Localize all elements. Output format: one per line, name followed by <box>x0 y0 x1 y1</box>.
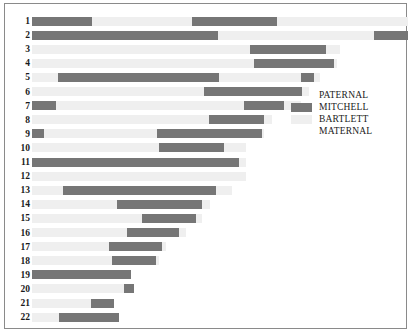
chromosome-row: 21 <box>14 296 408 310</box>
chromosome-row: 14 <box>14 197 408 211</box>
chromosome-row: 2 <box>14 28 408 42</box>
chromosome-bar <box>32 45 340 54</box>
chromosome-segment-bartlett <box>179 228 186 237</box>
chromosome-row: 4 <box>14 56 408 70</box>
chromosome-bar <box>32 214 202 223</box>
chromosome-number-label: 4 <box>14 56 30 70</box>
chromosome-row: 10 <box>14 141 408 155</box>
figure-frame: 12345678910111213141516171819202122 PATE… <box>4 3 407 329</box>
chromosome-number-label: 18 <box>14 254 30 268</box>
chromosome-number-label: 14 <box>14 197 30 211</box>
chromosome-segment-bartlett <box>156 256 159 265</box>
chromosome-segment-mitchell <box>254 59 334 68</box>
chromosome-segment-mitchell <box>59 313 119 322</box>
chromosome-segment-bartlett <box>32 45 250 54</box>
chromosome-segment-bartlett <box>239 158 246 167</box>
chromosome-segment-mitchell <box>32 101 56 110</box>
chromosome-segment-mitchell <box>58 73 219 82</box>
chromosome-number-label: 17 <box>14 240 30 254</box>
chromosome-segment-bartlett <box>32 59 254 68</box>
chromosome-segment-mitchell <box>250 45 326 54</box>
chromosome-segment-mitchell <box>124 284 134 293</box>
chromosome-segment-bartlett <box>32 115 209 124</box>
chromosome-number-label: 22 <box>14 310 30 324</box>
chromosome-bar <box>32 200 210 209</box>
chromosome-segment-bartlett <box>218 31 374 40</box>
chromosome-segment-bartlett <box>92 17 192 26</box>
chromosome-ideogram-figure: 12345678910111213141516171819202122 PATE… <box>0 0 412 334</box>
chromosome-bar <box>32 115 272 124</box>
chromosome-bar <box>32 101 301 110</box>
chromosome-bar <box>32 299 114 308</box>
chromosome-bar <box>32 129 264 138</box>
chromosome-bar <box>32 143 246 152</box>
chromosome-segment-bartlett <box>277 17 408 26</box>
chromosome-segment-bartlett <box>32 284 124 293</box>
chromosome-segment-bartlett <box>32 73 58 82</box>
chromosome-segment-bartlett <box>32 143 159 152</box>
chromosome-bar <box>32 186 232 195</box>
chromosome-segment-bartlett <box>32 242 109 251</box>
chromosome-segment-mitchell <box>157 129 262 138</box>
chromosome-segment-mitchell <box>209 115 264 124</box>
chromosome-segment-bartlett <box>264 115 272 124</box>
chromosome-row: 13 <box>14 183 408 197</box>
chromosome-number-label: 10 <box>14 141 30 155</box>
chromosome-segment-bartlett <box>334 59 337 68</box>
legend-item: PATERNAL <box>291 89 401 101</box>
chromosome-row: 15 <box>14 211 408 225</box>
legend: PATERNALMITCHELLBARTLETTMATERNAL <box>291 89 401 139</box>
chromosome-segment-mitchell <box>32 31 218 40</box>
legend-swatch-maternal <box>291 127 312 136</box>
chromosome-row: 18 <box>14 254 408 268</box>
chromosome-bar <box>32 59 337 68</box>
chromosome-bar <box>32 158 246 167</box>
chromosome-number-label: 19 <box>14 268 30 282</box>
chromosome-segment-bartlett <box>216 186 232 195</box>
chromosome-number-label: 9 <box>14 127 30 141</box>
chromosome-segment-bartlett <box>196 214 202 223</box>
chromosome-segment-bartlett <box>32 186 63 195</box>
chromosome-segment-bartlett <box>56 101 244 110</box>
chromosome-segment-mitchell <box>91 299 114 308</box>
chromosome-segment-mitchell <box>112 256 156 265</box>
chromosome-bar <box>32 284 134 293</box>
legend-item: MATERNAL <box>291 125 401 137</box>
chromosome-segment-bartlett <box>32 200 117 209</box>
legend-item: BARTLETT <box>291 113 401 125</box>
chromosome-row: 17 <box>14 240 408 254</box>
legend-item: MITCHELL <box>291 101 401 113</box>
chromosome-segment-bartlett <box>262 129 264 138</box>
chromosome-row: 1 <box>14 14 408 28</box>
chromosome-segment-mitchell <box>192 17 277 26</box>
chromosome-number-label: 3 <box>14 42 30 56</box>
chromosome-segment-mitchell <box>32 129 44 138</box>
chromosome-segment-bartlett <box>44 129 157 138</box>
chromosome-row: 20 <box>14 282 408 296</box>
chromosome-segment-mitchell <box>63 186 216 195</box>
chromosome-segment-bartlett <box>32 228 127 237</box>
chromosome-segment-mitchell <box>142 214 196 223</box>
chromosome-number-label: 11 <box>14 155 30 169</box>
chromosome-segment-mitchell <box>32 158 239 167</box>
chromosome-bar <box>32 87 309 96</box>
chromosome-number-label: 12 <box>14 169 30 183</box>
chromosome-segment-bartlett <box>32 299 91 308</box>
chromosome-bar <box>32 17 408 26</box>
chromosome-bar <box>32 172 246 181</box>
chromosome-segment-bartlett <box>326 45 340 54</box>
chromosome-segment-mitchell <box>204 87 302 96</box>
chromosome-bar <box>32 270 131 279</box>
chromosome-segment-bartlett <box>219 73 301 82</box>
chromosome-segment-mitchell <box>374 31 408 40</box>
chromosome-row: 11 <box>14 155 408 169</box>
chromosome-bar <box>32 31 408 40</box>
chromosome-segment-mitchell <box>244 101 284 110</box>
chromosome-bar <box>32 242 166 251</box>
legend-swatch-paternal <box>291 91 312 100</box>
chromosome-segment-bartlett <box>32 172 246 181</box>
chromosome-number-label: 20 <box>14 282 30 296</box>
chromosome-row: 19 <box>14 268 408 282</box>
chromosome-segment-bartlett <box>32 214 142 223</box>
chromosome-number-label: 8 <box>14 113 30 127</box>
